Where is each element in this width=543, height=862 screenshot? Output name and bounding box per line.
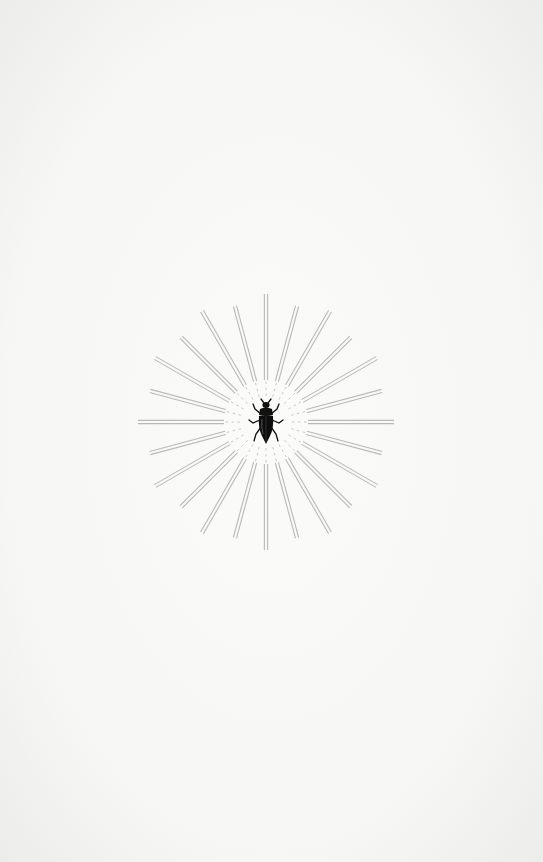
- sunburst-ray: [150, 392, 225, 412]
- sunburst-ray: [303, 359, 377, 402]
- sunburst-ray: [306, 434, 381, 454]
- halo-tick: [274, 389, 275, 391]
- halo-tick: [293, 449, 295, 451]
- halo-tick: [289, 398, 291, 400]
- halo-tick: [284, 402, 286, 404]
- halo-tick: [297, 430, 299, 431]
- halo-tick: [246, 440, 248, 442]
- beetle-icon: [249, 399, 283, 444]
- halo-tick: [276, 383, 277, 385]
- sunburst-ray: [297, 451, 352, 506]
- halo-tick: [293, 393, 295, 395]
- halo-tick: [246, 387, 247, 389]
- sunburst-ray: [150, 431, 225, 451]
- halo-tick: [241, 408, 243, 409]
- halo-tick: [238, 415, 240, 416]
- halo-tick: [289, 445, 291, 447]
- sunburst-ray: [203, 459, 246, 533]
- halo-tick: [294, 438, 296, 439]
- halo-tick: [285, 387, 286, 389]
- halo-tick: [227, 432, 229, 433]
- halo-tick: [231, 402, 233, 403]
- halo-tick: [273, 447, 274, 449]
- halo-tick: [276, 459, 277, 461]
- halo-tick: [238, 429, 240, 430]
- halo-tick: [233, 430, 235, 431]
- halo-tick: [285, 455, 286, 457]
- halo-tick: [291, 429, 293, 430]
- halo-tick: [273, 394, 274, 396]
- halo-tick: [294, 405, 296, 406]
- halo-tick: [284, 440, 286, 442]
- sunburst-ray: [180, 338, 235, 393]
- halo-tick: [259, 447, 260, 449]
- halo-tick: [282, 450, 283, 452]
- halo-tick: [289, 435, 291, 436]
- sunburst-ray: [297, 338, 352, 393]
- sunburst-ray: [307, 431, 382, 451]
- halo-tick: [252, 397, 253, 399]
- halo-tick: [256, 459, 257, 461]
- sunburst-ray: [286, 459, 329, 533]
- halo-tick: [236, 438, 238, 439]
- halo-tick: [299, 441, 301, 442]
- sunburst-ray: [278, 307, 298, 382]
- sunburst-ray: [295, 336, 350, 391]
- halo-tick: [257, 389, 258, 391]
- sunburst-ray: [236, 463, 256, 538]
- halo-tick: [241, 435, 243, 436]
- halo-tick: [282, 392, 283, 394]
- sunburst-ray: [275, 463, 295, 538]
- halo-tick: [291, 415, 293, 416]
- halo-tick: [297, 413, 299, 414]
- sunburst-ray: [154, 359, 228, 402]
- halo-tick: [246, 455, 247, 457]
- sunburst-ray: [233, 462, 253, 537]
- halo-tick: [274, 453, 275, 455]
- sunburst-ray: [236, 306, 256, 381]
- sunburst-illustration: [0, 0, 543, 862]
- halo-tick: [231, 441, 233, 442]
- halo-tick: [227, 412, 229, 413]
- sunburst-ray: [203, 310, 246, 384]
- halo-tick: [259, 394, 260, 396]
- halo-tick: [233, 413, 235, 414]
- halo-tick: [242, 398, 244, 400]
- sunburst-ray: [151, 434, 226, 454]
- halo-tick: [303, 412, 305, 413]
- sunburst-ray: [306, 389, 381, 409]
- halo-tick: [256, 383, 257, 385]
- halo-tick: [299, 402, 301, 403]
- halo-tick: [279, 445, 280, 447]
- sunburst-ray: [180, 451, 235, 506]
- sunburst-ray: [233, 307, 253, 382]
- halo-tick: [249, 392, 250, 394]
- halo-tick: [236, 405, 238, 406]
- halo-tick: [237, 393, 239, 395]
- sunburst-ray: [286, 310, 329, 384]
- sunburst-ray: [154, 442, 228, 485]
- sunburst-ray: [307, 392, 382, 412]
- sunburst-ray: [278, 462, 298, 537]
- sunburst-ray: [295, 453, 350, 508]
- halo-tick: [279, 397, 280, 399]
- halo-tick: [242, 445, 244, 447]
- book-page: [0, 0, 543, 862]
- halo-tick: [303, 432, 305, 433]
- halo-tick: [289, 408, 291, 409]
- sunburst-ray: [303, 442, 377, 485]
- halo-tick: [246, 402, 248, 404]
- sunburst-ray: [182, 453, 237, 508]
- sunburst-ray: [275, 306, 295, 381]
- halo-tick: [249, 450, 250, 452]
- sunburst-ray: [151, 389, 226, 409]
- sunburst-ray: [182, 336, 237, 391]
- halo-tick: [237, 449, 239, 451]
- halo-tick: [257, 453, 258, 455]
- halo-tick: [252, 445, 253, 447]
